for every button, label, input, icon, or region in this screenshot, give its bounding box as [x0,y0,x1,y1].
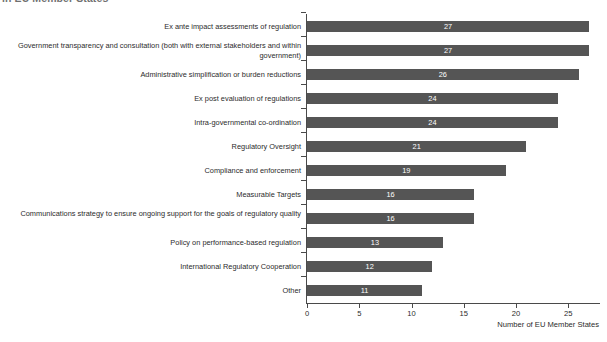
y-axis-tick [301,180,306,181]
category-label: Government transparency and consultation… [1,41,301,60]
x-axis-title: Number of EU Member States [497,320,599,329]
x-axis-tick [464,304,465,308]
bar[interactable] [307,117,558,128]
category-label: Intra-governmental co-ordination [1,118,301,128]
chart-row: Government transparency and consultation… [0,40,607,62]
y-axis-tick [301,204,306,205]
chart-row: Policy on performance-based regulation13 [0,232,607,254]
y-axis-tick [301,60,306,61]
x-axis-tick-label: 20 [501,309,531,318]
plot-area: Ex ante impact assessments of regulation… [0,14,607,304]
x-axis-tick-label: 25 [553,309,583,318]
bar[interactable] [307,165,506,176]
chart-row: Other11 [0,280,607,302]
category-label: Regulatory Oversight [1,142,301,152]
bar[interactable] [307,213,474,224]
x-axis-tick [359,304,360,308]
bar[interactable] [307,285,422,296]
category-label: Policy on performance-based regulation [1,238,301,248]
bar[interactable] [307,189,474,200]
y-axis-tick [301,108,306,109]
bar[interactable] [307,141,526,152]
x-axis-line [306,303,600,304]
y-axis-tick [301,84,306,85]
y-axis-tick [301,132,306,133]
category-label: International Regulatory Cooperation [1,262,301,272]
y-axis-tick [301,252,306,253]
category-label: Other [1,286,301,296]
x-axis-tick [516,304,517,308]
bar[interactable] [307,69,579,80]
bar[interactable] [307,93,558,104]
x-axis-tick-label: 0 [292,309,322,318]
chart-row: International Regulatory Cooperation12 [0,256,607,278]
chart-row: Ex post evaluation of regulations24 [0,88,607,110]
chart-row: Ex ante impact assessments of regulation… [0,16,607,38]
category-label: Communications strategy to ensure ongoin… [1,209,301,219]
category-label: Compliance and enforcement [1,166,301,176]
y-axis-tick [301,36,306,37]
y-axis-tick [301,228,306,229]
x-axis-tick [412,304,413,308]
chart-row: Administrative simplification or burden … [0,64,607,86]
x-axis-tick [307,304,308,308]
category-label: Measurable Targets [1,190,301,200]
category-label: Ex ante impact assessments of regulation [1,22,301,32]
bar[interactable] [307,261,432,272]
x-axis-tick [568,304,569,308]
y-axis-tick [301,276,306,277]
bar[interactable] [307,45,589,56]
bar-chart: in EU Member States Ex ante impact asses… [0,0,607,342]
category-label: Ex post evaluation of regulations [1,94,301,104]
chart-row: Intra-governmental co-ordination24 [0,112,607,134]
chart-row: Communications strategy to ensure ongoin… [0,208,607,230]
x-axis-tick-label: 5 [344,309,374,318]
bar[interactable] [307,237,443,248]
bar[interactable] [307,21,589,32]
x-axis-tick-label: 15 [449,309,479,318]
x-axis-tick-label: 10 [397,309,427,318]
y-axis-tick [301,156,306,157]
y-axis-line [306,14,307,304]
chart-row: Compliance and enforcement19 [0,160,607,182]
chart-row: Measurable Targets16 [0,184,607,206]
chart-row: Regulatory Oversight21 [0,136,607,158]
y-axis-tick [301,12,306,13]
chart-title: in EU Member States [2,0,108,4]
category-label: Administrative simplification or burden … [1,70,301,80]
